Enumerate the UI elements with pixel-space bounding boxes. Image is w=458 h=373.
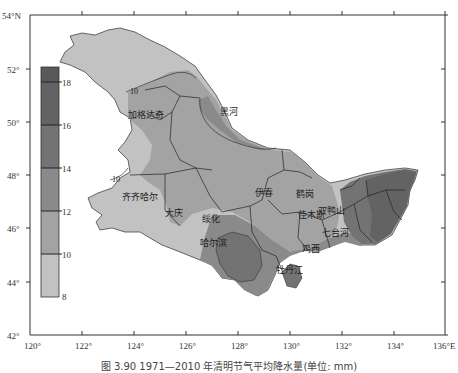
label-qiqihar: 齐齐哈尔 — [122, 191, 158, 202]
label-jiagedaqi: 加格达奇 — [128, 109, 164, 120]
y-tick-46: 46° — [7, 224, 20, 234]
label-hegang: 鹤岗 — [296, 188, 314, 199]
x-tick-122: 122° — [75, 341, 93, 351]
legend-label-18: 18 — [62, 78, 72, 88]
x-tick-120: 120° — [24, 341, 42, 351]
label-suihua: 绥化 — [202, 213, 220, 224]
colorbar-bin-14-16 — [41, 125, 59, 168]
label-yichun: 伊春 — [255, 187, 273, 198]
colorbar-legend: 18 16 14 12 10 8 — [41, 67, 72, 302]
label-jixi: 鸡西 — [302, 243, 320, 254]
label-qitaihe: 七台河 — [322, 227, 349, 238]
x-tick-130: 130° — [283, 341, 301, 351]
x-tick-132: 132° — [335, 341, 353, 351]
legend-label-16: 16 — [62, 121, 72, 131]
x-tick-136: 136°E — [433, 341, 456, 351]
figure-caption: 图 3.90 1971—2010 年清明节气平均降水量(单位: mm) — [0, 358, 458, 373]
colorbar-bin-16-18 — [41, 82, 59, 125]
y-tick-48: 48° — [7, 171, 20, 181]
y-tick-52: 52° — [7, 65, 20, 75]
colorbar-bin-gt18 — [41, 67, 59, 82]
colorbar-bin-10-12 — [41, 211, 59, 254]
legend-label-14: 14 — [62, 164, 72, 174]
province-map — [60, 28, 418, 296]
label-shuangyashan: 双鸭山 — [318, 205, 345, 216]
legend-label-10: 10 — [62, 250, 72, 260]
legend-label-8: 8 — [62, 292, 67, 302]
region-16-18-east — [366, 170, 416, 242]
label-harbin: 哈尔滨 — [200, 237, 227, 248]
x-tick-128: 128° — [231, 341, 249, 351]
x-tick-134: 134° — [387, 341, 405, 351]
x-tick-124: 124° — [127, 341, 145, 351]
x-axis-labels: 120° 122° 124° 126° 128° 130° 132° 134° … — [24, 341, 456, 351]
label-mudanjiang: 牡丹江 — [276, 264, 303, 275]
y-tick-44: 44° — [7, 278, 20, 288]
contour-label-north-10: 10 — [130, 87, 138, 96]
legend-label-12: 12 — [62, 207, 71, 217]
y-tick-50: 50° — [7, 118, 20, 128]
label-heihe: 黑河 — [220, 106, 238, 117]
label-daqing: 大庆 — [165, 207, 183, 218]
x-tick-126: 126° — [179, 341, 197, 351]
colorbar-bin-lt10 — [41, 254, 59, 297]
contour-label-west-10: 10 — [112, 175, 120, 184]
y-tick-54: 54°N — [2, 11, 22, 21]
y-tick-42: 42° — [7, 331, 20, 341]
y-axis-labels: 54°N 52° 50° 48° 46° 44° 42° — [2, 11, 22, 341]
colorbar-bin-12-14 — [41, 168, 59, 211]
